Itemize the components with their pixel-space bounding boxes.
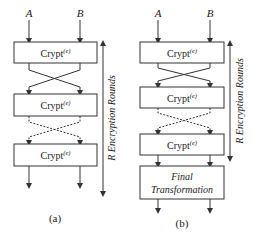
caption-b: (b) [176,217,189,230]
diagram-b: A B Crypt(e) Crypt(e) [140,7,245,230]
crypt-superscript: (e) [190,47,197,55]
crypt-block-2: Crypt(e) [140,87,224,108]
crypt-block-3: Crypt(e) [140,134,224,155]
final-label-line1: Final [170,171,193,182]
input-b-label: B [207,7,214,19]
crypt-label: Crypt [167,48,190,59]
swap-cross-1 [29,63,80,93]
crypt-label: Crypt [41,48,64,59]
crypt-label: Crypt [41,150,64,161]
swap-cross-2-dashed [29,116,80,143]
crypt-label: Crypt [167,93,190,104]
diagram-a: A B Crypt(e) Crypt(e) [14,7,117,225]
rounds-label: R Encryption Rounds [106,75,117,162]
crypt-block-1: Crypt(e) [140,42,224,63]
crypt-label: Crypt [167,140,190,151]
final-transformation-block: Final Transformation [140,166,224,199]
input-a-label: A [154,7,162,19]
swap-cross-2-dashed [158,108,210,133]
crypt-block-2: Crypt(e) [14,94,97,116]
crypt-block-3: Crypt(e) [14,144,97,166]
crypt-superscript: (e) [190,139,197,147]
swap-cross-1 [158,63,210,86]
crypt-superscript: (e) [190,92,197,100]
crypt-label: Crypt [41,100,64,111]
crypt-superscript: (e) [63,149,70,157]
final-label-line2: Transformation [151,184,213,195]
input-b-label: B [77,7,84,19]
crypt-block-1: Crypt(e) [14,42,97,63]
crypt-superscript: (e) [63,99,70,107]
caption-a: (a) [49,212,62,225]
rounds-label: R Encryption Rounds [234,58,245,145]
crypt-superscript: (e) [63,47,70,55]
figure: A B Crypt(e) Crypt(e) [0,0,253,239]
input-a-label: A [25,7,33,19]
